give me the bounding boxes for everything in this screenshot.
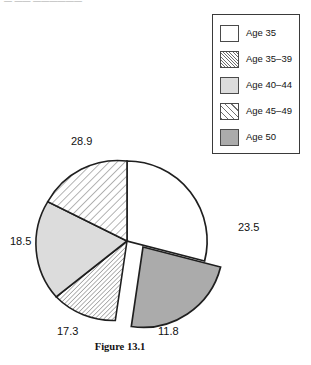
data-label-age-50: 23.5 [238, 222, 259, 233]
data-label-age-35-39: 11.8 [158, 326, 179, 337]
data-label-age-40-44: 17.3 [57, 326, 78, 337]
legend-swatch-age-45-49 [220, 103, 239, 120]
legend-item-age-40-44[interactable]: Age 40–44 [220, 72, 299, 98]
legend-label-age-35-39: Age 35–39 [246, 54, 292, 64]
pie-wedges [36, 160, 221, 327]
figure-caption: Figure 13.1 [0, 341, 240, 352]
wedge-age-35[interactable] [127, 161, 207, 261]
legend-swatch-age-35 [220, 25, 239, 42]
legend-swatch-age-35-39 [220, 51, 239, 68]
legend-item-age-45-49[interactable]: Age 45–49 [220, 98, 299, 124]
legend-label-age-40-44: Age 40–44 [246, 80, 292, 90]
legend-swatch-age-40-44 [220, 77, 239, 94]
figure-container: — —— —————— Age 35 Age 35–39 Age 40–44 A… [0, 0, 311, 365]
pie-chart [0, 128, 270, 338]
wedge-age-50[interactable] [131, 247, 220, 327]
legend-label-age-35: Age 35 [246, 28, 276, 38]
cropped-header-text: — —— —————— [4, 0, 82, 5]
legend-item-age-35[interactable]: Age 35 [220, 20, 299, 46]
data-label-age-45-49: 18.5 [10, 236, 31, 247]
legend-label-age-45-49: Age 45–49 [246, 106, 292, 116]
legend-item-age-35-39[interactable]: Age 35–39 [220, 46, 299, 72]
data-label-age-35: 28.9 [71, 136, 92, 147]
